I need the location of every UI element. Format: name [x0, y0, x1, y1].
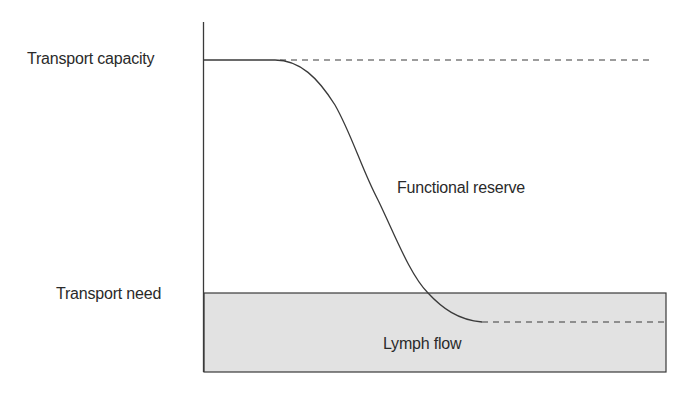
transport-need-label: Transport need: [56, 285, 161, 303]
functional-reserve-label: Functional reserve: [397, 179, 525, 197]
transport-capacity-label: Transport capacity: [27, 50, 154, 68]
lymph-flow-region: [204, 293, 666, 372]
lymph-flow-label: Lymph flow: [383, 335, 461, 353]
